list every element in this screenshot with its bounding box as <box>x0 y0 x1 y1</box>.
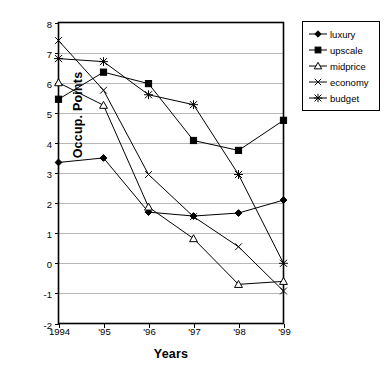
data-point <box>55 96 61 102</box>
legend: luxury upscale midprice economy budget <box>302 21 380 111</box>
x-tick-label-1994: 1994 <box>37 326 83 338</box>
x-tick-text: '98 <box>217 326 263 337</box>
data-point <box>235 147 241 153</box>
x-tick-label-96: '96 <box>127 326 173 338</box>
y-tick-text: 2 <box>28 198 52 209</box>
line-chart-figure: Occup. Points Years 876543210-1-2 1994'9… <box>0 0 388 381</box>
data-point <box>235 210 242 217</box>
x-tick-label-95: '95 <box>82 326 128 338</box>
data-point <box>190 235 198 242</box>
legend-label: upscale <box>330 45 363 56</box>
x-tick-label-97: '97 <box>172 326 218 338</box>
legend-item-upscale[interactable]: upscale <box>308 43 375 57</box>
y-tick-text: 3 <box>28 168 52 179</box>
x-tick-label-98: '98 <box>217 326 263 338</box>
legend-marker-cross-x-icon <box>308 76 328 88</box>
x-tick-label-99: '99 <box>262 326 308 338</box>
data-point <box>145 81 151 87</box>
y-tick-text: -1 <box>28 288 52 299</box>
legend-label: budget <box>330 93 359 104</box>
data-point <box>54 54 63 63</box>
y-tick-text: 5 <box>28 108 52 119</box>
data-point <box>100 87 107 94</box>
y-tick-text: 4 <box>28 138 52 149</box>
data-point <box>145 203 153 210</box>
data-point <box>234 170 243 179</box>
data-point <box>145 171 152 178</box>
x-tick-text: 1994 <box>37 326 83 337</box>
data-point <box>100 69 106 75</box>
data-point <box>100 101 108 108</box>
legend-marker-asterisk-icon <box>308 92 328 104</box>
legend-label: economy <box>330 77 369 88</box>
y-tick-text: 7 <box>28 48 52 59</box>
data-point <box>235 243 242 250</box>
legend-marker-open-triangle-icon <box>308 60 328 72</box>
legend-item-luxury[interactable]: luxury <box>308 27 375 41</box>
legend-label: midprice <box>330 61 366 72</box>
y-tick-text: 6 <box>28 78 52 89</box>
data-point <box>280 277 288 284</box>
data-point <box>55 159 62 166</box>
data-point <box>280 197 287 204</box>
data-point <box>144 90 153 99</box>
y-tick-text: 0 <box>28 258 52 269</box>
data-point <box>99 57 108 66</box>
x-tick-text: '95 <box>82 326 128 337</box>
x-tick-text: '99 <box>262 326 308 337</box>
x-tick-text: '96 <box>127 326 173 337</box>
legend-item-midprice[interactable]: midprice <box>308 59 375 73</box>
x-tick-text: '97 <box>172 326 218 337</box>
data-point <box>189 100 198 109</box>
legend-item-budget[interactable]: budget <box>308 91 375 105</box>
data-point <box>190 137 196 143</box>
legend-marker-filled-square-icon <box>308 44 328 56</box>
legend-marker-filled-diamond-icon <box>308 28 328 40</box>
data-point <box>55 79 63 86</box>
y-tick-text: 8 <box>28 18 52 29</box>
y-tick-text: 1 <box>28 228 52 239</box>
legend-label: luxury <box>330 29 355 40</box>
x-axis-title: Years <box>58 347 284 361</box>
y-axis-title: Occup. Points <box>71 35 93 195</box>
data-point <box>279 259 288 268</box>
data-point <box>280 117 286 123</box>
legend-item-economy[interactable]: economy <box>308 75 375 89</box>
